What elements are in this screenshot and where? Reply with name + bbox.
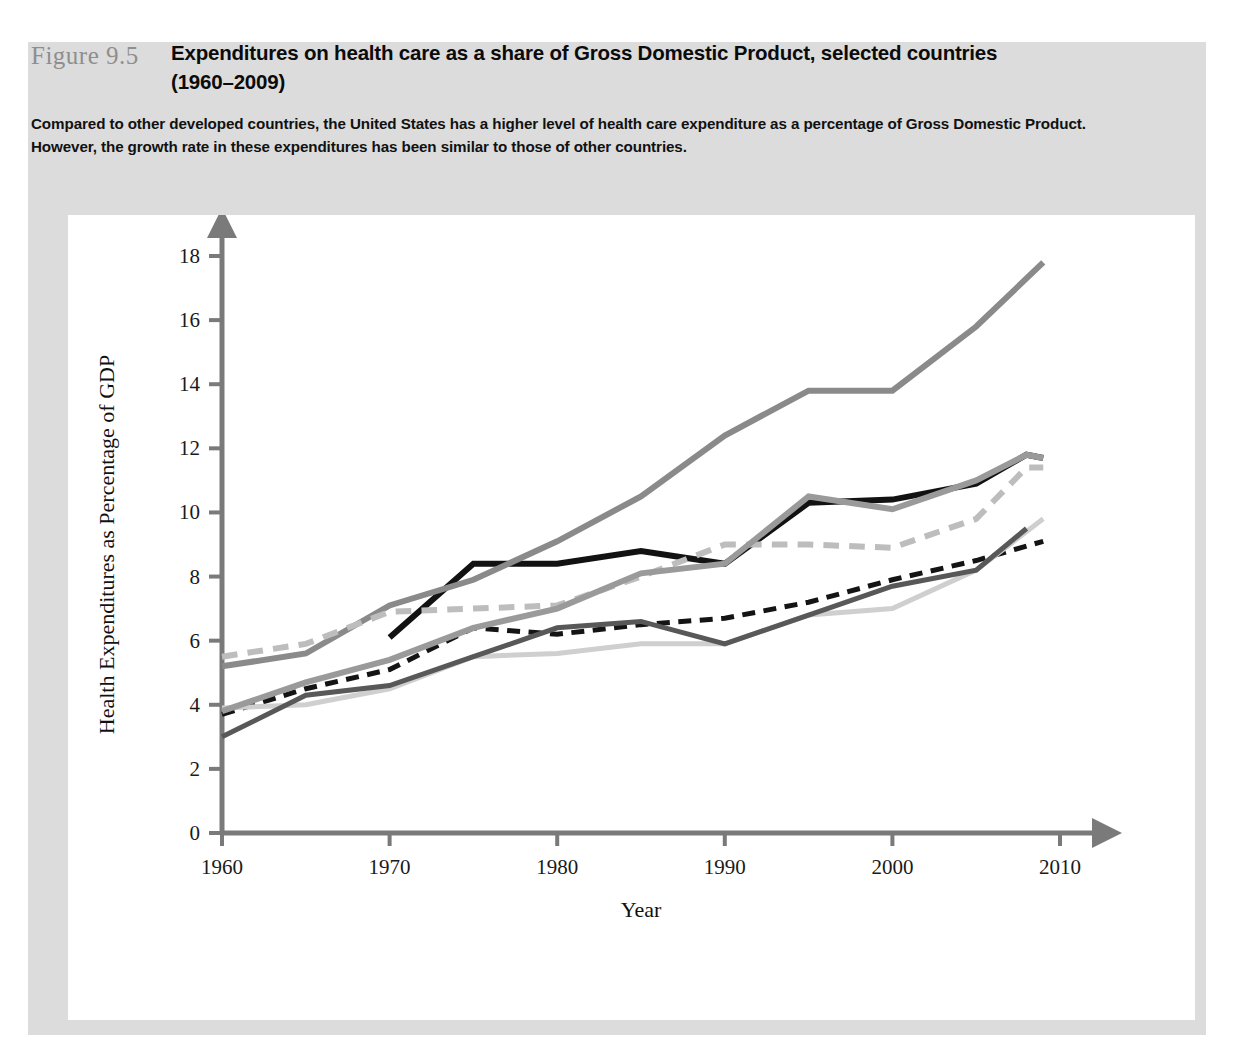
x-axis-tick-label: 2010 [1039, 855, 1081, 879]
x-axis-title: Year [621, 897, 662, 922]
x-axis-tick-label: 1990 [704, 855, 746, 879]
y-axis-title: Health Expenditures as Percentage of GDP [94, 355, 119, 734]
y-axis-tick-label: 14 [179, 372, 201, 396]
x-axis-tick-label: 1960 [201, 855, 243, 879]
figure-title-line-2: (1960–2009) [171, 67, 1151, 96]
y-axis-tick-label: 8 [190, 565, 201, 589]
x-axis-tick-label: 1970 [369, 855, 411, 879]
figure-page: Figure 9.5 Expenditures on health care a… [0, 0, 1234, 1061]
y-axis-tick-label: 16 [179, 308, 200, 332]
y-axis-tick-label: 12 [179, 436, 200, 460]
series-line-united-states [222, 262, 1043, 666]
y-axis-tick-label: 0 [190, 821, 201, 845]
y-axis-tick-label: 6 [190, 629, 201, 653]
figure-number: Figure 9.5 [31, 42, 166, 70]
line-chart: 024681012141618196019701980199020002010Y… [68, 215, 1195, 1020]
plot-panel: 024681012141618196019701980199020002010Y… [68, 215, 1195, 1020]
figure-caption: Compared to other developed countries, t… [31, 112, 1146, 158]
figure-caption-line-1: Compared to other developed countries, t… [31, 115, 1086, 132]
series-line-united-kingdom [222, 519, 1043, 708]
x-axis-tick-label: 2000 [871, 855, 913, 879]
figure-title-line-1: Expenditures on health care as a share o… [171, 41, 997, 64]
figure-caption-line-2: However, the growth rate in these expend… [31, 135, 1146, 158]
figure-title: Expenditures on health care as a share o… [171, 38, 1151, 96]
y-axis-tick-label: 10 [179, 500, 200, 524]
y-axis-tick-label: 4 [190, 693, 201, 717]
y-axis-tick-label: 2 [190, 757, 201, 781]
y-axis-tick-label: 18 [179, 244, 200, 268]
x-axis-tick-label: 1980 [536, 855, 578, 879]
